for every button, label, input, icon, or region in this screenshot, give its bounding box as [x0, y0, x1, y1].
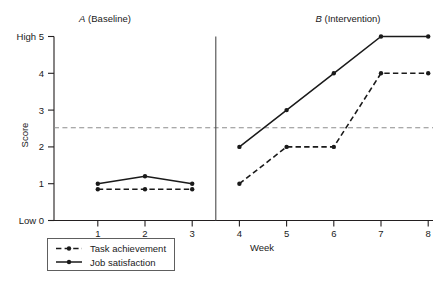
phase-b-name: (Intervention): [322, 13, 381, 24]
data-point: [379, 34, 383, 38]
phase-a-letter: A: [78, 13, 85, 24]
single-case-design-line-chart: A (Baseline) B (Intervention): [0, 0, 447, 282]
legend-label-job-satisfaction: Job satisfaction: [90, 257, 155, 268]
y-tick-label-1: 1: [39, 178, 44, 189]
x-tick-label-5: 5: [284, 228, 289, 239]
x-tick-label-2: 2: [142, 228, 147, 239]
data-point: [426, 34, 430, 38]
y-axis-ticks: [48, 37, 54, 221]
x-tick-label-1: 1: [95, 228, 100, 239]
data-point: [332, 71, 336, 75]
chart-legend: Task achievement Job satisfaction: [48, 239, 175, 271]
y-tick-label-2: 2: [39, 141, 44, 152]
x-axis-title: Week: [250, 242, 274, 253]
data-point: [143, 174, 147, 178]
phase-b-label: B (Intervention): [316, 13, 381, 24]
legend-marker: [67, 260, 71, 264]
data-point: [237, 182, 241, 186]
chart-figure: A (Baseline) B (Intervention): [0, 0, 447, 282]
x-tick-label-7: 7: [378, 228, 383, 239]
data-point: [190, 182, 194, 186]
series-task-achievement: [96, 71, 431, 191]
axis-lines: [54, 37, 433, 221]
y-tick-label-4: 4: [39, 68, 44, 79]
data-point: [426, 71, 430, 75]
y-tick-label-5: High 5: [17, 31, 44, 42]
data-point: [96, 182, 100, 186]
x-tick-label-6: 6: [331, 228, 336, 239]
legend-marker: [67, 246, 71, 250]
legend-label-task-achievement: Task achievement: [90, 243, 166, 254]
data-point: [332, 145, 336, 149]
x-axis-ticks: [98, 221, 428, 227]
data-point: [190, 187, 194, 191]
series-job-satisfaction: [96, 34, 431, 186]
y-tick-label-3: 3: [39, 105, 44, 116]
x-tick-label-4: 4: [237, 228, 242, 239]
phase-a-name: (Baseline): [85, 13, 130, 24]
data-point: [284, 108, 288, 112]
data-point: [379, 71, 383, 75]
y-axis-title: Score: [19, 123, 30, 148]
y-tick-label-0: Low 0: [19, 215, 44, 226]
x-tick-label-8: 8: [426, 228, 431, 239]
phase-a-label: A (Baseline): [78, 13, 131, 24]
data-point: [284, 145, 288, 149]
data-point: [143, 187, 147, 191]
x-tick-label-3: 3: [190, 228, 195, 239]
data-point: [237, 145, 241, 149]
data-point: [96, 187, 100, 191]
